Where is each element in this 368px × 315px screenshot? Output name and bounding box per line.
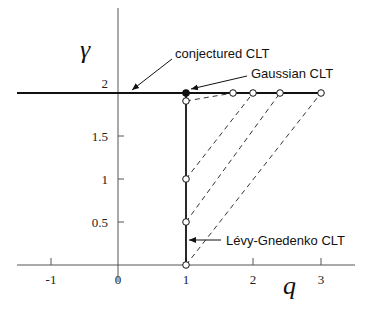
x-tick-label: 0 [115,272,122,287]
conjectured-arrow [132,59,172,90]
x-tick-label: 3 [318,272,325,287]
y-tick-label: 1 [102,172,109,187]
x-tick-label: 1 [183,272,190,287]
gaussian-arrow [191,76,247,89]
gaussian-clt-label: Gaussian CLT [251,66,333,81]
levy-gnedenko-clt-label: Lévy-Gnedenko CLT [226,233,345,248]
conjectured-clt-label: conjectured CLT [175,46,269,61]
y-tick-label: 2 [102,76,109,91]
y-axis-symbol: γ [80,35,91,64]
gaussian-point [182,89,190,97]
x-tick-label: 2 [250,272,257,287]
x-axis-symbol: q [283,271,296,300]
clt-diagram: -1 0 1 2 3 2 1.5 1 0.5 γ q conjectured C… [0,0,368,315]
x-tick-label: -1 [46,272,57,287]
y-tick-label: 1.5 [92,129,108,144]
y-ticks [118,136,124,222]
y-tick-label: 0.5 [92,215,108,230]
